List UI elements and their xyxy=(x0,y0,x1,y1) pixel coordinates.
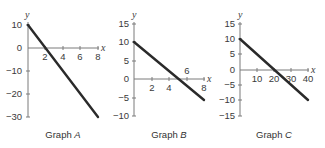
graph-c-xtick: 40 xyxy=(303,73,314,84)
graph-c-ytick: −5 xyxy=(224,79,235,90)
graph-c-y-label: y xyxy=(237,9,243,20)
graph-c-xtick: 10 xyxy=(252,73,263,84)
graph-c-caption: Graph C xyxy=(256,129,292,140)
graph-a-caption: Graph A xyxy=(45,129,80,140)
graph-a-xtick: 4 xyxy=(60,51,65,62)
graph-a-ytick: 10 xyxy=(11,19,22,30)
graph-c-ytick: 15 xyxy=(224,18,235,29)
graph-a-xtick: 6 xyxy=(77,51,82,62)
graph-a: y x 10 0 −10 −20 −30 2 4 6 8 Graph A xyxy=(6,9,106,140)
graph-a-ytick: 0 xyxy=(17,42,22,53)
graph-a-x-label: x xyxy=(100,42,106,53)
graph-b-xtick: 4 xyxy=(166,82,171,93)
graph-b-x-label: x xyxy=(206,73,212,84)
graph-c-ytick: −15 xyxy=(219,110,235,121)
graph-b-y-label: y xyxy=(131,9,137,20)
graph-b-ytick: −10 xyxy=(113,110,129,121)
graph-c: y x 15 10 5 0 −5 −10 −15 10 20 30 40 Gra… xyxy=(219,9,316,140)
graphs-figure: y x 10 0 −10 −20 −30 2 4 6 8 Graph A y x… xyxy=(0,0,325,148)
graph-c-ytick: −10 xyxy=(219,94,235,105)
graph-a-ytick: −20 xyxy=(6,88,22,99)
graph-a-y-label: y xyxy=(24,9,30,20)
graph-b-ytick: −5 xyxy=(118,92,129,103)
graph-b-ytick: 15 xyxy=(118,18,129,29)
graph-c-xtick: 20 xyxy=(269,73,280,84)
graph-b-xtick: 6 xyxy=(184,65,189,76)
graph-c-ytick: 10 xyxy=(224,33,235,44)
graph-b-xtick: 8 xyxy=(201,82,206,93)
graph-a-xtick: 8 xyxy=(95,51,100,62)
graph-c-ytick: 5 xyxy=(230,48,235,59)
graph-b-caption: Graph B xyxy=(151,129,187,140)
graph-a-ytick: −30 xyxy=(6,111,22,122)
graph-b-ytick: 10 xyxy=(118,36,129,47)
graph-b-xtick: 2 xyxy=(149,82,154,93)
graph-a-data-line xyxy=(28,25,98,117)
graph-b-ytick: 0 xyxy=(124,73,129,84)
graph-b: y x 15 10 5 0 −5 −10 2 4 6 8 Graph B xyxy=(113,9,212,140)
graph-b-ytick: 5 xyxy=(124,55,129,66)
graph-a-xtick: 2 xyxy=(42,51,47,62)
graph-a-ytick: −10 xyxy=(6,65,22,76)
graph-c-ytick: 0 xyxy=(230,64,235,75)
